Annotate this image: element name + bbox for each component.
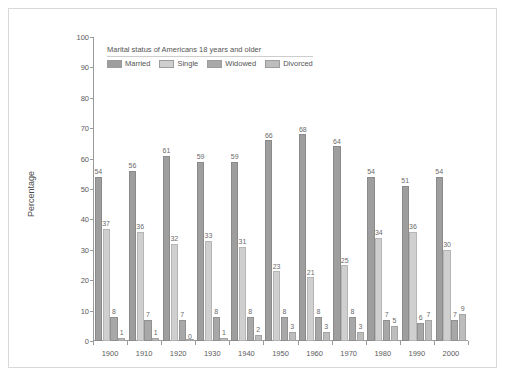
bar-single-1990[interactable] [409,232,416,341]
bar-value-label: 8 [278,308,291,315]
x-axis-tick-mark [263,341,264,345]
bar-value-label: 8 [346,308,359,315]
bar-group: 5931821940 [229,37,263,341]
x-axis-tick-mark [400,341,401,345]
bar-married-1990[interactable] [402,186,409,341]
y-axis-tick-label: 30 [67,246,89,254]
y-axis-tick-label: 20 [67,277,89,285]
bar-married-1920[interactable] [163,156,170,341]
y-axis-tick-label: 80 [67,94,89,102]
bar-value-label: 61 [160,147,173,154]
bar-divorced-1980[interactable] [391,326,398,341]
bar-group: 5636711910 [127,37,161,341]
bar-single-1940[interactable] [239,247,246,341]
legend-swatch-icon [107,60,122,68]
bar-value-label: 25 [338,257,351,264]
bar-value-label: 54 [92,168,105,175]
bar-divorced-1910[interactable] [152,338,159,341]
x-axis-tick-label: 1900 [93,350,127,358]
x-axis-tick-label: 1940 [229,350,263,358]
bar-single-1970[interactable] [341,265,348,341]
bar-married-1960[interactable] [299,134,306,341]
x-axis-tick-label: 1980 [366,350,400,358]
bar-divorced-1900[interactable] [118,338,125,341]
x-axis-tick-mark [229,341,230,345]
chart-frame: Percentage 0102030405060708090100 543781… [8,8,497,368]
bar-group: 6623831950 [263,37,297,341]
legend: Marital status of Americans 18 years and… [103,43,319,71]
bar-group: 6821831960 [298,37,332,341]
bar-value-label: 7 [176,311,189,318]
x-axis-tick-label: 2000 [434,350,468,358]
bar-divorced-1950[interactable] [289,332,296,341]
x-axis-tick-mark [298,341,299,345]
bar-divorced-1960[interactable] [323,332,330,341]
legend-label: Married [125,60,150,68]
x-axis-tick-mark [127,341,128,345]
bar-group: 6425831970 [332,37,366,341]
y-axis-tick-label: 60 [67,155,89,163]
bar-value-label: 23 [270,263,283,270]
x-axis-tick-label: 1960 [298,350,332,358]
bar-married-1980[interactable] [367,177,374,341]
y-axis-tick-label: 100 [67,34,89,42]
x-axis-tick-mark [434,341,435,345]
bar-divorced-1990[interactable] [425,320,432,341]
bar-value-label: 54 [364,168,377,175]
bar-widowed-2000[interactable] [451,320,458,341]
bar-value-label: 56 [126,162,139,169]
x-axis-tick-mark [161,341,162,345]
bar-value-label: 30 [440,241,453,248]
bar-groups: 5437811900563671191061327019205933811930… [93,37,468,341]
bar-single-1900[interactable] [103,229,110,341]
bar-group: 5434751980 [366,37,400,341]
bar-single-1950[interactable] [273,271,280,341]
bar-value-label: 34 [372,229,385,236]
bar-single-1920[interactable] [171,244,178,341]
bar-value-label: 51 [399,177,412,184]
x-axis-tick-label: 1920 [161,350,195,358]
bar-divorced-1930[interactable] [220,338,227,341]
bar-value-label: 64 [330,138,343,145]
bar-value-label: 21 [304,269,317,276]
legend-label: Divorced [283,60,313,68]
bar-single-2000[interactable] [443,250,450,341]
y-axis-tick-label: 50 [67,186,89,194]
y-axis-tick-label: 90 [67,64,89,72]
bar-married-1940[interactable] [231,162,238,341]
bar-divorced-1940[interactable] [255,335,262,341]
bar-single-1910[interactable] [137,232,144,341]
bar-value-label: 31 [236,238,249,245]
x-axis-tick-mark [332,341,333,345]
bar-married-1900[interactable] [95,177,102,341]
bar-value-label: 36 [406,223,419,230]
legend-item-widowed[interactable]: Widowed [207,60,256,68]
bar-married-2000[interactable] [436,177,443,341]
bar-value-label: 7 [141,311,154,318]
x-axis-tick-mark [366,341,367,345]
legend-label: Single [177,60,198,68]
bar-group: 5136671990 [400,37,434,341]
bar-single-1980[interactable] [375,238,382,341]
x-axis-tick-label: 1990 [400,350,434,358]
bar-value-label: 8 [312,308,325,315]
bar-group: 5430792000 [434,37,468,341]
bar-widowed-1990[interactable] [417,323,424,341]
bar-divorced-1970[interactable] [357,332,364,341]
legend-item-divorced[interactable]: Divorced [265,60,313,68]
bar-value-label: 33 [202,232,215,239]
bar-value-label: 8 [210,308,223,315]
plot-area: Percentage 0102030405060708090100 543781… [93,37,468,341]
x-axis-tick-mark [93,341,94,345]
bar-divorced-2000[interactable] [459,314,466,341]
bar-married-1950[interactable] [265,140,272,341]
legend-item-married[interactable]: Married [107,60,150,68]
bar-single-1930[interactable] [205,241,212,341]
bar-married-1930[interactable] [197,162,204,341]
bar-married-1910[interactable] [129,171,136,341]
legend-label: Widowed [225,60,256,68]
x-axis-tick-label: 1910 [127,350,161,358]
bar-married-1970[interactable] [333,146,340,341]
legend-item-single[interactable]: Single [159,60,198,68]
legend-swatch-icon [207,60,222,68]
